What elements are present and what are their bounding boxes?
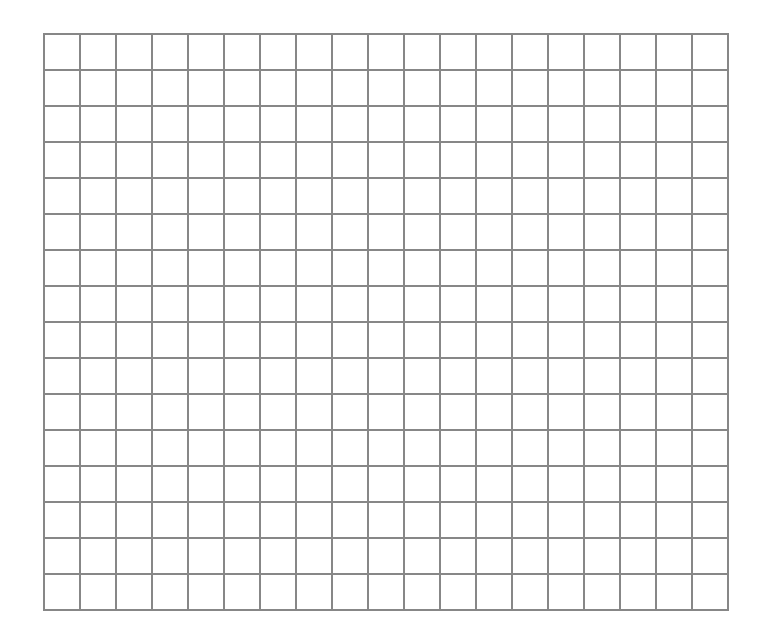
page-root	[0, 0, 770, 642]
grid-sheet	[43, 33, 729, 611]
